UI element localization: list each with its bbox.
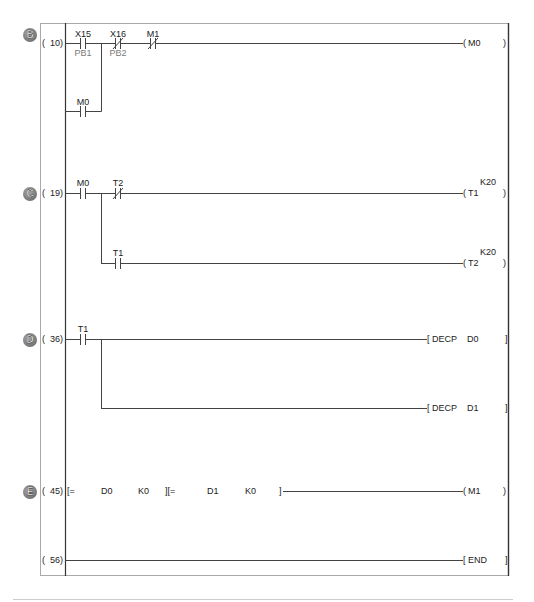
coil-close: ) bbox=[503, 37, 506, 49]
step-number: 10) bbox=[44, 37, 63, 49]
coil-close: ) bbox=[503, 257, 506, 269]
instruction-open-bracket: [ bbox=[427, 402, 430, 414]
section-marker-d: D bbox=[23, 333, 37, 347]
step-number: 36) bbox=[44, 333, 63, 345]
coil-close: ) bbox=[503, 187, 506, 199]
instruction-open-bracket: [ bbox=[427, 333, 430, 345]
compare-close-bracket: ] bbox=[279, 485, 282, 497]
ladder-wiring bbox=[0, 0, 534, 602]
coil-open: ( bbox=[463, 257, 466, 269]
compare-operand-k0[interactable]: K0 bbox=[138, 485, 149, 497]
rung-19-wiring bbox=[65, 188, 463, 269]
timer-setpoint-t2[interactable]: K20 bbox=[480, 246, 496, 258]
instruction-open-bracket: [ bbox=[463, 554, 466, 566]
compare-operand-d1[interactable]: D1 bbox=[207, 485, 219, 497]
section-marker-e: E bbox=[23, 485, 37, 499]
step-number: 56) bbox=[44, 554, 63, 566]
branch-contact-label-t1[interactable]: T1 bbox=[113, 247, 124, 259]
contact-no-icon bbox=[81, 334, 86, 345]
instruction-close-bracket: ] bbox=[505, 402, 508, 414]
section-marker-c: C bbox=[23, 187, 37, 201]
compare-equal-open[interactable]: [= bbox=[67, 485, 75, 497]
contact-label-x15[interactable]: X15 bbox=[75, 28, 91, 40]
timer-coil-label-t1[interactable]: T1 bbox=[468, 187, 479, 199]
instruction-decp[interactable]: DECP bbox=[432, 333, 457, 345]
section-marker-b: B bbox=[23, 28, 37, 42]
contact-no-icon bbox=[116, 258, 121, 269]
timer-coil-label-t2[interactable]: T2 bbox=[468, 257, 479, 269]
contact-label-t1[interactable]: T1 bbox=[78, 323, 89, 335]
step-number: 45) bbox=[44, 485, 63, 497]
contact-label-m0[interactable]: M0 bbox=[77, 177, 90, 189]
coil-open: ( bbox=[463, 187, 466, 199]
instruction-close-bracket: ] bbox=[505, 333, 508, 345]
compare-operand-d0[interactable]: D0 bbox=[101, 485, 113, 497]
coil-open: ( bbox=[463, 485, 466, 497]
coil-open: ( bbox=[463, 37, 466, 49]
rung-36-wiring bbox=[65, 334, 427, 409]
contact-label-m1[interactable]: M1 bbox=[147, 28, 160, 40]
ladder-diagram: B C D E ( 10) X15 PB1 X16 PB2 M1 M0 ( M0… bbox=[0, 0, 534, 602]
device-comment-pb2: PB2 bbox=[109, 47, 126, 59]
compare-operand-k0[interactable]: K0 bbox=[245, 485, 256, 497]
branch-contact-label-m0[interactable]: M0 bbox=[77, 96, 90, 108]
coil-close: ) bbox=[503, 485, 506, 497]
instruction-end[interactable]: END bbox=[468, 554, 487, 566]
contact-label-x16[interactable]: X16 bbox=[110, 28, 126, 40]
contact-label-t2[interactable]: T2 bbox=[113, 177, 124, 189]
compare-equal-open[interactable]: ][= bbox=[165, 485, 175, 497]
operand-d0[interactable]: D0 bbox=[467, 333, 479, 345]
instruction-close-bracket: ] bbox=[505, 554, 508, 566]
contact-no-icon bbox=[81, 188, 86, 199]
coil-label-m1[interactable]: M1 bbox=[468, 485, 481, 497]
timer-setpoint-t1[interactable]: K20 bbox=[480, 176, 496, 188]
device-comment-pb1: PB1 bbox=[74, 47, 91, 59]
instruction-decp[interactable]: DECP bbox=[432, 402, 457, 414]
step-number: 19) bbox=[44, 187, 63, 199]
coil-label-m0[interactable]: M0 bbox=[468, 37, 481, 49]
operand-d1[interactable]: D1 bbox=[467, 402, 479, 414]
